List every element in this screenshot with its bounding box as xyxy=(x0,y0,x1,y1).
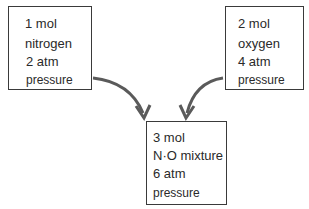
nitrogen-pressure: 2 atm xyxy=(26,55,59,69)
oxygen-amount: 2 mol xyxy=(238,17,270,31)
nitrogen-amount: 1 mol xyxy=(25,17,57,31)
arrow-left-to-bottom xyxy=(93,78,150,118)
oxygen-pressure: 4 atm xyxy=(238,55,271,69)
nitrogen-pressure-label: pressure xyxy=(26,73,73,87)
mixture-pressure: 6 atm xyxy=(153,167,186,181)
arrow-right-to-bottom xyxy=(180,78,223,118)
nitrogen-box: 1 mol nitrogen 2 atm pressure xyxy=(8,6,92,90)
mixture-pressure-label: pressure xyxy=(153,186,200,200)
oxygen-pressure-label: pressure xyxy=(238,73,285,87)
nitrogen-gas-label: nitrogen xyxy=(25,37,72,51)
oxygen-box: 2 mol oxygen 4 atm pressure xyxy=(225,6,304,90)
mixture-box: 3 mol N·O mixture 6 atm pressure xyxy=(146,121,227,205)
oxygen-gas-label: oxygen xyxy=(238,37,280,51)
mixture-amount: 3 mol xyxy=(153,131,185,145)
mixture-gas-label: N·O mixture xyxy=(153,149,223,163)
